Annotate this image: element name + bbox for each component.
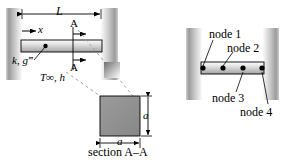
section-caption: section A–A	[88, 146, 148, 158]
x-axis-label: x	[38, 24, 43, 35]
section-mark-top: A	[70, 18, 78, 29]
node-1-label: node 1	[209, 28, 241, 40]
node-3-label: node 3	[212, 92, 244, 104]
section-mark-bottom: A	[70, 62, 78, 73]
label-layer: L x k, g‴ T∞, h A A a a section A–A node…	[0, 0, 296, 163]
length-label: L	[56, 5, 63, 17]
node-2-label: node 2	[227, 42, 259, 54]
ambient-label: T∞, h	[40, 72, 65, 83]
figure-canvas: L x k, g‴ T∞, h A A a a section A–A node…	[0, 0, 296, 163]
node-4-label: node 4	[240, 106, 272, 118]
material-label: k, g‴	[12, 55, 33, 66]
section-height-label: a	[143, 110, 149, 121]
